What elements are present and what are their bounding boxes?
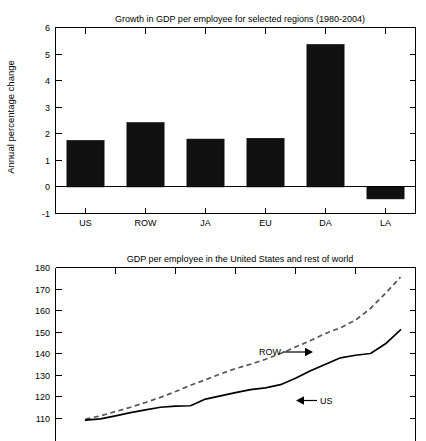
top-chart-x-ticklabels: US ROW JA EU DA LA xyxy=(79,218,391,228)
bottom-ytick-120: 120 xyxy=(35,392,50,402)
annotation-row-label: ROW xyxy=(259,347,282,357)
annotation-us: US xyxy=(296,396,333,406)
bottom-chart-y-ticks xyxy=(56,268,416,419)
annotation-us-label: US xyxy=(320,396,333,406)
series-row-line xyxy=(86,277,401,419)
top-ytick-2: 2 xyxy=(45,129,50,139)
top-xtick-ja: JA xyxy=(200,218,211,228)
bottom-ytick-110: 110 xyxy=(36,414,50,424)
top-ytick-0: 0 xyxy=(45,182,50,192)
top-xtick-row: ROW xyxy=(135,218,158,228)
bottom-chart-title: GDP per employee in the United States an… xyxy=(127,254,353,264)
top-chart-y-axis-label: Annual percentage change xyxy=(5,60,16,174)
top-ytick-4: 4 xyxy=(45,76,50,86)
annotation-row: ROW xyxy=(259,347,313,357)
bottom-ytick-180: 180 xyxy=(35,263,50,273)
bottom-ytick-150: 150 xyxy=(35,328,50,338)
bottom-ytick-130: 130 xyxy=(35,371,50,381)
bottom-ytick-140: 140 xyxy=(35,349,50,359)
top-xtick-us: US xyxy=(79,218,92,228)
top-chart-y-ticks xyxy=(56,28,416,214)
top-xtick-la: LA xyxy=(380,218,391,228)
top-chart-title: Growth in GDP per employee for selected … xyxy=(115,14,365,24)
bar-da xyxy=(307,45,344,187)
bottom-ytick-160: 160 xyxy=(35,306,50,316)
figure-container: Growth in GDP per employee for selected … xyxy=(0,0,426,441)
top-ytick-1: 1 xyxy=(45,156,50,166)
bar-series xyxy=(67,45,404,199)
growth-bar-chart: Growth in GDP per employee for selected … xyxy=(0,0,426,236)
bottom-chart-y-ticklabels: 180 170 160 150 140 130 120 110 xyxy=(35,263,50,424)
bar-us xyxy=(67,140,104,187)
bottom-ytick-170: 170 xyxy=(35,285,50,295)
series-us-line xyxy=(86,330,401,420)
top-xtick-da: DA xyxy=(319,218,332,228)
top-ytick-3: 3 xyxy=(45,103,50,113)
top-ytick-6: 6 xyxy=(45,23,50,33)
bottom-chart-x-ticks xyxy=(116,268,356,274)
top-xtick-eu: EU xyxy=(259,218,272,228)
annotation-us-arrowhead xyxy=(296,396,304,404)
bar-la xyxy=(367,187,404,199)
annotation-row-arrowhead xyxy=(305,348,313,356)
bar-ja xyxy=(187,139,224,187)
top-chart-plot-frame xyxy=(56,28,416,214)
top-chart-y-ticklabels: 6 5 4 3 2 1 0 -1 xyxy=(42,23,50,219)
top-ytick-5: 5 xyxy=(45,50,50,60)
top-ytick-neg1: -1 xyxy=(42,209,50,219)
gdp-level-chart: GDP per employee in the United States an… xyxy=(0,235,426,441)
bar-row xyxy=(127,123,164,187)
bar-eu xyxy=(247,138,284,187)
